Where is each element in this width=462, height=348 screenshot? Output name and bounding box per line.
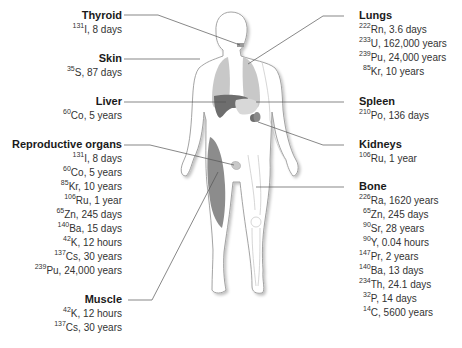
body-silhouette xyxy=(181,12,298,293)
organ-label-kidneys: Kidneys 106Ru, 1 year xyxy=(359,137,417,166)
isotope-entry: 233U, 162,000 years xyxy=(359,37,447,51)
organ-title: Muscle xyxy=(54,292,122,307)
isotope-entry: 222Rn, 3.6 days xyxy=(359,23,447,37)
organ-label-skin: Skin 35S, 87 days xyxy=(67,51,122,80)
organ-label-muscle: Muscle 42K, 12 hours 137Cs, 30 years xyxy=(54,292,122,335)
isotope-entry: 140Ba, 15 days xyxy=(12,222,122,236)
isotope-entry: 14C, 5600 years xyxy=(359,306,439,320)
organ-title: Lungs xyxy=(359,8,447,23)
isotope-entry: 239Pu, 24,000 years xyxy=(359,51,447,65)
isotope-entry: 60Co, 5 years xyxy=(12,166,122,180)
organ-label-bone: Bone 226Ra, 1620 years 65Zn, 245 days 90… xyxy=(359,179,439,320)
isotope-entry: 85Kr, 10 years xyxy=(12,180,122,194)
muscle-leader xyxy=(128,172,218,300)
organ-title: Reproductive organs xyxy=(12,137,122,152)
kidney-shape xyxy=(254,112,261,122)
isotope-entry: 85Kr, 10 years xyxy=(359,65,447,79)
organ-label-thyroid: Thyroid 131I, 8 days xyxy=(73,8,123,37)
isotope-entry: 131I, 8 days xyxy=(12,152,122,166)
isotope-entry: 42K, 12 hours xyxy=(54,307,122,321)
isotope-entry: 60Co, 5 years xyxy=(63,109,122,123)
isotope-entry: 239Pu, 24,000 years xyxy=(12,264,122,278)
organ-label-lungs: Lungs 222Rn, 3.6 days 233U, 162,000 year… xyxy=(359,8,447,79)
organ-title: Thyroid xyxy=(73,8,123,23)
isotope-entry: 106Ru, 1 year xyxy=(359,152,417,166)
organ-title: Liver xyxy=(63,94,122,109)
isotope-entry: 90Sr, 28 years xyxy=(359,222,439,236)
isotope-entry: 106Ru, 1 year xyxy=(12,194,122,208)
isotope-entry: 65Zn, 245 days xyxy=(12,208,122,222)
isotope-entry: 35S, 87 days xyxy=(67,66,122,80)
isotope-entry: 234Th, 24.1 days xyxy=(359,278,439,292)
isotope-entry: 42K, 12 hours xyxy=(12,236,122,250)
organ-label-spleen: Spleen 210Po, 136 days xyxy=(359,94,429,123)
isotope-entry: 65Zn, 245 days xyxy=(359,208,439,222)
isotope-entry: 226Ra, 1620 years xyxy=(359,194,439,208)
isotope-entry: 32P, 14 days xyxy=(359,292,439,306)
lungs-leader xyxy=(248,16,344,64)
organ-title: Spleen xyxy=(359,94,429,109)
organ-title: Kidneys xyxy=(359,137,417,152)
isotope-entry: 137Cs, 30 years xyxy=(12,250,122,264)
isotope-entry: 137Cs, 30 years xyxy=(54,321,122,335)
isotope-entry: 140Ba, 13 days xyxy=(359,264,439,278)
thyroid-shape xyxy=(237,43,244,47)
isotope-entry: 210Po, 136 days xyxy=(359,109,429,123)
isotope-entry: 147Pr, 2 years xyxy=(359,250,439,264)
isotope-entry: 131I, 8 days xyxy=(73,23,123,37)
organ-title: Bone xyxy=(359,179,439,194)
organ-title: Skin xyxy=(67,51,122,66)
isotope-entry: 90Y, 0.04 hours xyxy=(359,236,439,250)
organ-label-liver: Liver 60Co, 5 years xyxy=(63,94,122,123)
organ-label-reproductive-organs: Reproductive organs 131I, 8 days 60Co, 5… xyxy=(12,137,122,278)
